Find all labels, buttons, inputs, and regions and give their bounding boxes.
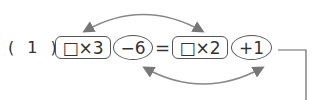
term-oval-plus1: +1 xyxy=(231,35,272,60)
term-box-x2: □×2 xyxy=(172,36,228,59)
continuation-line xyxy=(278,50,306,100)
problem-number: ( 1 ) xyxy=(8,38,61,57)
term-box-x3: □×3 xyxy=(55,36,111,59)
bottom-swap-arrow xyxy=(145,68,262,84)
equals-sign: = xyxy=(155,36,170,59)
term-oval-minus6: −6 xyxy=(113,35,153,60)
top-swap-arrow xyxy=(85,15,202,32)
